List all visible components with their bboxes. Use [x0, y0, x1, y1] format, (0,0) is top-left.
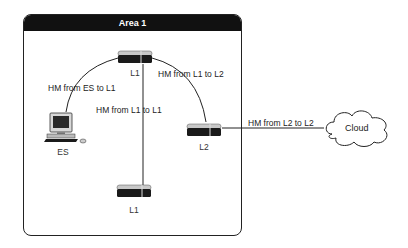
computer-es-icon[interactable] [42, 112, 90, 146]
router-l1-bottom-label: L1 [119, 205, 149, 215]
computer-es-label: ES [48, 147, 78, 157]
router-l2-icon[interactable] [186, 123, 222, 137]
router-l1-bottom-icon[interactable] [116, 184, 152, 198]
link-label-l1-to-l1: HM from L1 to L1 [96, 105, 162, 115]
router-l1-top-label: L1 [120, 68, 150, 78]
cloud-label: Cloud [345, 123, 369, 133]
router-l1-top-icon[interactable] [117, 50, 153, 64]
router-l2-label: L2 [189, 142, 219, 152]
link-label-l2-to-cloud: HM from L2 to L2 [248, 118, 314, 128]
link-label-es-to-l1: HM from ES to L1 [48, 83, 116, 93]
link-label-l1-to-l2: HM from L1 to L2 [158, 69, 224, 79]
